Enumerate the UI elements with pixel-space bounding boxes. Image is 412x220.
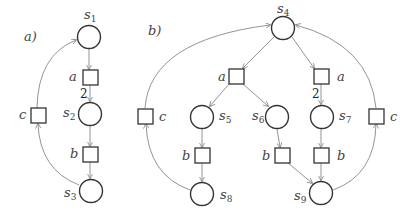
transition-label-c-left: c xyxy=(159,110,166,123)
arc-weight-2: 2 xyxy=(80,88,88,100)
place-label-s8: s8 xyxy=(220,188,232,204)
transition-label-b-s5: b xyxy=(182,149,190,162)
petri-net-diagram: a) b) s1 s2 s3 a b c 2 s4 s5 s6 s7 s8 s9… xyxy=(0,0,412,220)
arc-weight-2-b: 2 xyxy=(312,88,320,100)
places xyxy=(78,17,334,206)
place-label-s5: s5 xyxy=(219,109,231,125)
panel-b-label: b) xyxy=(148,24,161,37)
panel-a-label: a) xyxy=(24,30,37,43)
transition-label-c: c xyxy=(19,108,26,121)
transition-label-a: a xyxy=(69,70,77,83)
transition-label-a-left: a xyxy=(218,70,226,83)
transition-label-a-right: a xyxy=(337,70,345,83)
place-label-s7: s7 xyxy=(339,109,351,125)
place-label-s1: s1 xyxy=(84,8,96,24)
transition-label-b-s6: b xyxy=(262,149,270,162)
transition-label-b-s7: b xyxy=(337,149,345,162)
place-label-s6: s6 xyxy=(252,109,264,125)
transition-label-b: b xyxy=(70,147,78,160)
transition-label-c-right: c xyxy=(390,110,397,123)
place-label-s9: s9 xyxy=(294,189,306,205)
place-label-s4: s4 xyxy=(277,2,289,18)
place-label-s2: s2 xyxy=(63,106,75,122)
place-label-s3: s3 xyxy=(64,186,76,202)
